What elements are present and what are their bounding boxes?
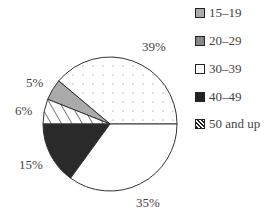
legend-swatch-hatched (195, 119, 205, 129)
legend-item-20-29: 20–29 (195, 33, 242, 49)
legend-item-15-19: 15–19 (195, 5, 242, 21)
legend-swatch-black (195, 92, 205, 102)
legend-swatch-white (195, 64, 205, 74)
legend-label: 30–39 (209, 61, 242, 77)
label-39: 39% (142, 39, 166, 54)
legend-label: 15–19 (209, 5, 242, 21)
legend-swatch-dotted (195, 36, 205, 46)
label-6: 6% (15, 103, 33, 118)
legend-label: 40–49 (209, 89, 242, 105)
legend-item-40-49: 40–49 (195, 89, 242, 105)
legend-item-30-39: 30–39 (195, 61, 242, 77)
label-15: 15% (19, 157, 43, 172)
label-5: 5% (26, 75, 44, 90)
label-35: 35% (136, 195, 160, 210)
legend-swatch-gray (195, 8, 205, 18)
legend-label: 50 and up (209, 116, 260, 132)
legend-item-50-and-up: 50 and up (195, 116, 260, 132)
legend-label: 20–29 (209, 33, 242, 49)
